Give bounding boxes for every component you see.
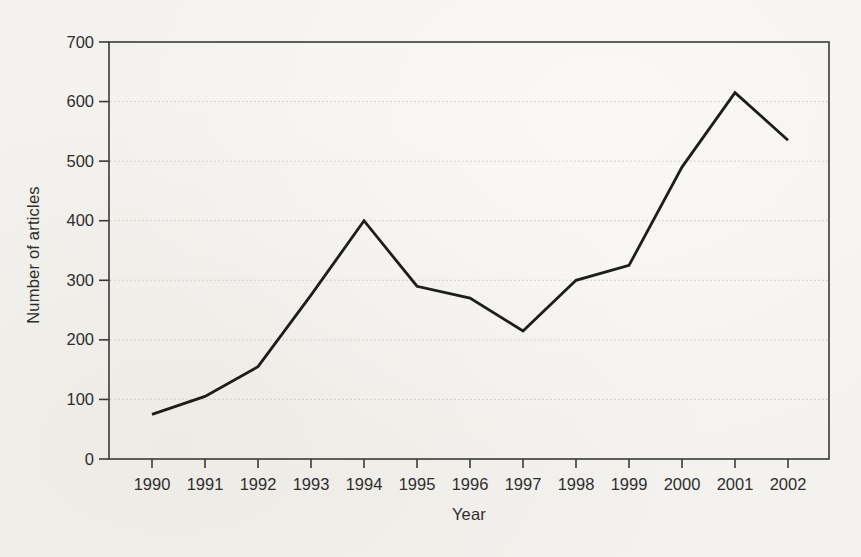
x-tick-label: 1996 bbox=[452, 475, 489, 493]
y-tick-label: 0 bbox=[85, 450, 94, 468]
x-tick-label: 1990 bbox=[134, 475, 171, 493]
y-tick-label: 400 bbox=[66, 211, 94, 229]
data-line-articles bbox=[152, 93, 788, 415]
y-tick-label: 200 bbox=[66, 330, 94, 348]
y-tick-label: 600 bbox=[66, 92, 94, 110]
y-tick-label: 500 bbox=[66, 152, 94, 170]
x-tick-label: 1993 bbox=[293, 475, 330, 493]
x-tick-label: 1995 bbox=[399, 475, 436, 493]
chart-canvas: 0100200300400500600700199019911992199319… bbox=[0, 0, 861, 557]
x-tick-label: 1998 bbox=[558, 475, 595, 493]
x-tick-label: 1994 bbox=[346, 475, 383, 493]
y-axis-title: Number of articles bbox=[24, 186, 43, 323]
x-axis-title: Year bbox=[109, 505, 829, 524]
y-tick-label: 700 bbox=[66, 33, 94, 51]
x-tick-label: 2000 bbox=[664, 475, 701, 493]
scanned-chart-page: 0100200300400500600700199019911992199319… bbox=[0, 0, 861, 557]
y-tick-label: 100 bbox=[66, 390, 94, 408]
x-tick-label: 1999 bbox=[611, 475, 648, 493]
plot-frame bbox=[109, 42, 829, 459]
x-tick-label: 1997 bbox=[505, 475, 542, 493]
x-tick-label: 1991 bbox=[187, 475, 224, 493]
y-tick-label: 300 bbox=[66, 271, 94, 289]
x-tick-label: 2001 bbox=[717, 475, 754, 493]
x-tick-label: 1992 bbox=[240, 475, 277, 493]
x-tick-label: 2002 bbox=[770, 475, 807, 493]
line-chart: 0100200300400500600700199019911992199319… bbox=[0, 0, 861, 557]
